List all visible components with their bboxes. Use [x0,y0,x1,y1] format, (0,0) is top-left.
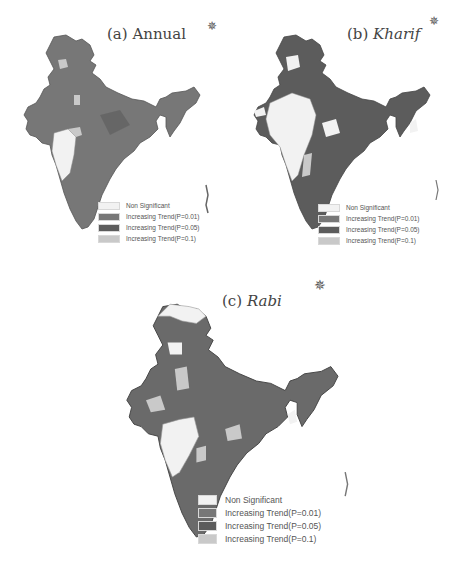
panel-title-kharif: (b) Kharif [347,25,420,43]
swatch-p01 [318,237,340,245]
legend-item: Non Significant [318,202,420,213]
panel-rabi: (c) Rabi ✵ Non Significant Increasing Tr… [110,280,380,566]
legend-item: Non Significant [198,493,321,506]
legend-item: Increasing Trend(P=0.1) [198,532,321,545]
legend-item: Increasing Trend(P=0.05) [318,224,420,235]
swatch-non-significant [318,204,340,212]
legend-item: Increasing Trend(P=0.01) [198,506,321,519]
panel-kharif: (b) Kharif ✵ Non Significant Increasing … [240,15,465,265]
swatch-p01 [198,534,217,544]
swatch-p005 [318,226,340,234]
legend-item: Increasing Trend(P=0.01) [318,213,420,224]
swatch-p001 [318,215,340,223]
swatch-p005 [98,224,120,232]
panel-title-annual: (a) Annual [107,25,186,43]
legend-item: Increasing Trend(P=0.1) [98,233,200,244]
swatch-non-significant [98,202,120,210]
legend-kharif: Non Significant Increasing Trend(P=0.01)… [318,202,420,246]
swatch-p001 [198,508,217,518]
legend-item: Non Significant [98,200,200,211]
swatch-p01 [98,235,120,243]
legend-item: Increasing Trend(P=0.05) [98,222,200,233]
swatch-p005 [198,521,217,531]
legend-rabi: Non Significant Increasing Trend(P=0.01)… [198,493,321,545]
legend-item: Increasing Trend(P=0.1) [318,235,420,246]
compass-icon: ✵ [429,15,439,27]
legend-item: Increasing Trend(P=0.01) [98,211,200,222]
legend-item: Increasing Trend(P=0.05) [198,519,321,532]
panel-title-rabi: (c) Rabi [222,292,282,310]
compass-icon: ✵ [207,20,217,32]
compass-icon: ✵ [314,278,326,292]
swatch-non-significant [198,495,217,505]
legend-annual: Non Significant Increasing Trend(P=0.01)… [98,200,200,244]
panel-annual: (a) Annual ✵ Non Significant Increasing … [10,15,235,265]
swatch-p001 [98,213,120,221]
